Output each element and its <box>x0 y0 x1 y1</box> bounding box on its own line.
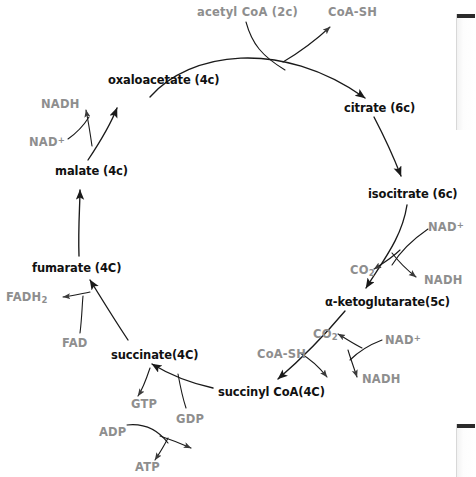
label-nadplus-isocitrate: NAD+ <box>428 221 464 234</box>
label-nadh-isocitrate: NADH <box>424 275 463 287</box>
arrow-gdp-regen <box>160 436 191 448</box>
arrow-malate-to-oxaloacetate <box>88 108 117 160</box>
cycle-arrows-layer <box>0 0 476 477</box>
co2-isocitrate-sub: 2 <box>369 268 375 278</box>
krebs-cycle-diagram: oxaloacetate (4c) citrate (6c) isocitrat… <box>0 0 476 477</box>
nadplus-akg-sup: + <box>414 333 421 343</box>
nadplus-malate-text: NAD <box>29 135 58 149</box>
nadplus-malate-sup: + <box>58 135 65 145</box>
nadplus-akg-text: NAD <box>385 333 414 347</box>
label-isocitrate: isocitrate (6c) <box>368 189 458 201</box>
right-edge-bar-top[interactable] <box>456 14 475 130</box>
fadh2-text: FADH <box>6 290 41 304</box>
label-coa-sh-top: CoA-SH <box>328 7 377 19</box>
arrow-fumarate-to-malate <box>79 190 80 256</box>
right-edge-bar-top-cap <box>457 14 475 18</box>
arrow-coa-sh-out <box>283 27 330 62</box>
label-atp: ATP <box>135 462 160 474</box>
label-gdp: GDP <box>176 414 204 426</box>
arrow-nadh-out-isocitrate <box>392 253 416 277</box>
arrow-adp-in <box>127 425 168 443</box>
nadplus-isocitrate-sup: + <box>457 220 464 230</box>
label-alpha-ketoglutarate: α-ketoglutarate(5c) <box>325 297 450 309</box>
label-fumarate: fumarate (4C) <box>32 263 121 275</box>
arrow-succinate-to-fumarate <box>90 280 128 340</box>
label-co2-akg: CO2 <box>313 329 338 341</box>
label-succinyl-coa: succinyl CoA(4C) <box>218 387 325 399</box>
arrow-co2-out-isocitrate <box>374 250 400 269</box>
label-fad: FAD <box>62 338 88 350</box>
label-coa-sh-akg: CoA-SH <box>257 349 306 361</box>
fadh2-sub: 2 <box>41 295 47 305</box>
label-malate: malate (4c) <box>55 166 128 178</box>
arrow-atp-out <box>155 438 168 460</box>
arrow-fad-in <box>80 296 83 333</box>
label-succinate: succinate(4C) <box>111 350 199 362</box>
label-adp: ADP <box>99 427 126 439</box>
right-edge-bar-bottom-cap <box>457 424 475 428</box>
arrow-akg-to-succinyl-coa <box>278 311 345 379</box>
co2-akg-text: CO <box>313 327 332 341</box>
label-nadh-akg: NADH <box>362 374 401 386</box>
arrow-fadh2-out <box>63 292 90 297</box>
arrow-nadplus-in-isocitrate <box>392 229 428 265</box>
label-citrate: citrate (6c) <box>344 103 415 115</box>
label-nadplus-malate: NAD+ <box>29 136 65 149</box>
label-fadh2: FADH2 <box>6 292 48 304</box>
arrow-nadplus-in-malate <box>68 117 89 139</box>
arrow-gdp-in <box>178 374 186 408</box>
co2-isocitrate-text: CO <box>350 263 369 277</box>
arrow-gtp-out <box>138 368 150 396</box>
arrow-co2-out-akg <box>338 334 362 348</box>
arrow-nadh-out-akg <box>348 350 357 377</box>
arrow-citrate-to-isocitrate <box>374 117 401 176</box>
nadplus-isocitrate-text: NAD <box>428 220 457 234</box>
arrow-nadh-out-malate <box>86 110 92 146</box>
arrow-succinyl-coa-to-succinate <box>152 364 213 388</box>
label-oxaloacetate: oxaloacetate (4c) <box>108 75 220 87</box>
label-gtp: GTP <box>131 399 157 411</box>
arrow-acetyl-coa-in <box>246 22 285 70</box>
right-edge-bar-bottom[interactable] <box>456 424 475 477</box>
label-nadh-malate: NADH <box>41 99 80 111</box>
arrow-nadplus-in-akg <box>350 340 382 360</box>
label-co2-isocitrate: CO2 <box>350 265 375 277</box>
label-acetyl-coa: acetyl CoA (2c) <box>197 7 298 19</box>
label-nadplus-akg: NAD+ <box>385 334 421 347</box>
co2-akg-sub: 2 <box>332 332 338 342</box>
